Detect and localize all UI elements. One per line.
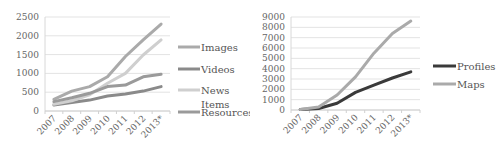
- y-tick-label: 3000: [262, 74, 285, 84]
- legend-label: Maps: [457, 79, 485, 90]
- y-tick-label: 9000: [262, 12, 285, 22]
- y-tick-label: 500: [22, 87, 39, 97]
- legend-label: Images: [201, 42, 238, 53]
- y-tick-label: 1500: [16, 50, 39, 60]
- legend-label: Videos: [200, 64, 235, 75]
- y-tick-label: 2000: [262, 84, 285, 94]
- right-line-chart: 0100020003000400050006000700080009000200…: [250, 0, 501, 145]
- y-tick-label: 0: [279, 105, 285, 115]
- y-tick-label: 1000: [262, 95, 285, 105]
- x-tick-label: 2008: [300, 112, 323, 135]
- x-tick-label: 2010: [337, 112, 360, 135]
- x-tick-label: 2007: [35, 113, 58, 136]
- y-tick-label: 2500: [16, 12, 39, 22]
- y-tick-label: 1000: [16, 68, 39, 78]
- series-line-maps: [300, 21, 411, 109]
- right-chart-canvas: 0100020003000400050006000700080009000200…: [250, 0, 501, 145]
- x-tick-label: 2008: [53, 113, 76, 136]
- y-tick-label: 4000: [262, 64, 285, 74]
- legend-label: Resources: [201, 107, 250, 118]
- y-tick-label: 6000: [262, 43, 285, 53]
- left-chart-canvas: 0500100015002000250020072008200920102011…: [0, 0, 250, 145]
- x-tick-label: 2011: [107, 113, 130, 136]
- y-tick-label: 8000: [262, 22, 285, 32]
- x-tick-label: 2011: [355, 112, 378, 135]
- y-tick-label: 5000: [262, 53, 285, 63]
- legend-label: Profiles: [457, 61, 495, 72]
- y-tick-label: 0: [33, 106, 39, 116]
- y-tick-label: 7000: [262, 33, 285, 43]
- x-tick-label: 2009: [318, 112, 341, 135]
- x-tick-label: 2007: [281, 112, 304, 135]
- left-line-chart: 0500100015002000250020072008200920102011…: [0, 0, 250, 145]
- x-tick-label: 2010: [89, 113, 112, 136]
- x-tick-label: 2009: [71, 113, 94, 136]
- y-tick-label: 2000: [16, 31, 39, 41]
- legend-label: News: [201, 85, 229, 96]
